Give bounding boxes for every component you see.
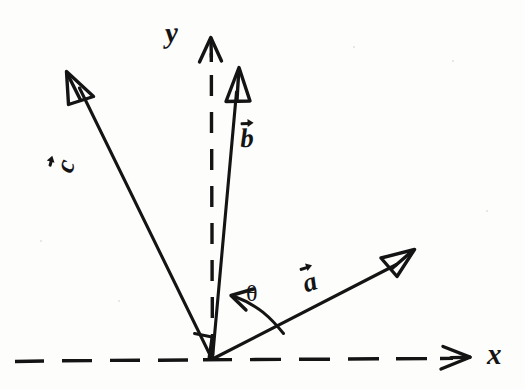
vector-b-label: b: [239, 118, 254, 152]
vector-a: [214, 250, 415, 359]
vector-b: [213, 68, 251, 359]
right-angle-square: [195, 334, 213, 358]
scan-speck: [118, 300, 120, 302]
x-axis: [15, 347, 470, 370]
vector-diagram-figure: y x c b a θ: [0, 0, 525, 389]
scan-speck: [452, 60, 454, 62]
scan-speck: [353, 46, 355, 48]
diagram-svg: [0, 0, 525, 389]
scan-speck: [486, 210, 488, 212]
scan-speck: [40, 240, 42, 242]
vector-b-overarrow-icon: [239, 118, 253, 127]
vector-c: [67, 72, 212, 359]
vector-b-shaft: [213, 92, 237, 358]
x-axis-dashes: [15, 358, 453, 361]
x-axis-label: x: [487, 340, 502, 369]
theta-angle-label: θ: [246, 281, 258, 305]
vector-b-arrowhead-inner: [237, 70, 239, 101]
y-axis-dashes: [211, 53, 212, 355]
right-angle-marker: [195, 334, 213, 358]
vector-c-shaft: [80, 88, 212, 358]
y-axis-arrowhead-stem: [211, 39, 212, 58]
y-axis-label: y: [164, 18, 179, 48]
vector-b-label-text: b: [240, 126, 254, 152]
